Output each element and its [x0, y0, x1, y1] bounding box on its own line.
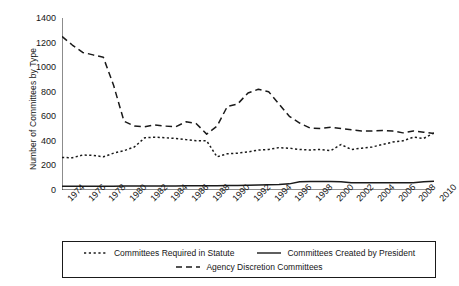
x-tick-label: 2008 [417, 183, 438, 204]
solid-line-icon [256, 249, 282, 257]
dashed-line-icon [175, 263, 201, 271]
x-tick-label: 1978 [107, 183, 128, 204]
legend-label-required-in-statute: Committees Required in Statute [114, 248, 234, 258]
x-tick-label: 1984 [169, 183, 190, 204]
legend-item-required-in-statute: Committees Required in Statute [83, 248, 234, 258]
x-tick-label: 1976 [87, 183, 108, 204]
legend-row-2: Agency Discretion Committees [63, 262, 435, 272]
x-tick-label: 1998 [314, 183, 335, 204]
x-tick-label: 1996 [293, 183, 314, 204]
x-tick-label: 1974 [66, 183, 87, 204]
x-tick-label: 2004 [376, 183, 397, 204]
x-tick-label: 1986 [190, 183, 211, 204]
x-tick-label: 2006 [397, 183, 418, 204]
x-tick-label: 1994 [273, 183, 294, 204]
x-tick-label: 1992 [252, 183, 273, 204]
x-tick-label: 2000 [335, 183, 356, 204]
x-tick-label: 1982 [149, 183, 170, 204]
legend-row-1: Committees Required in Statute Committee… [63, 248, 435, 258]
chart-legend: Committees Required in Statute Committee… [62, 241, 436, 278]
x-tick-label: 2002 [355, 183, 376, 204]
x-tick-label: 1990 [231, 183, 252, 204]
legend-label-created-by-president: Committees Created by President [287, 248, 415, 258]
dotted-line-icon [83, 249, 109, 257]
x-tick-label: 2010 [438, 183, 459, 204]
x-tick-label: 1980 [128, 183, 149, 204]
legend-item-agency-discretion: Agency Discretion Committees [175, 262, 322, 272]
legend-item-created-by-president: Committees Created by President [256, 248, 415, 258]
legend-label-agency-discretion: Agency Discretion Committees [206, 262, 322, 272]
x-tick-label: 1988 [211, 183, 232, 204]
